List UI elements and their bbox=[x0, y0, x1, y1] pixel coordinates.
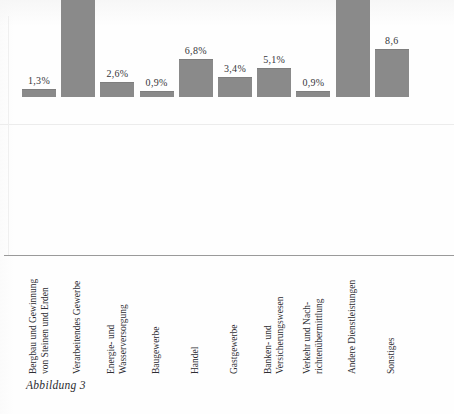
figure-page: • • • • 1,3%32,1%2,6%0,9%6,8%3,4%5,1%0,9… bbox=[0, 0, 454, 414]
bar-column: 2,6% bbox=[100, 83, 134, 97]
bar-value-label: 8,6 bbox=[367, 35, 417, 46]
bar-column: 8,6 bbox=[375, 50, 409, 97]
chart-baseline bbox=[4, 255, 454, 256]
bar bbox=[218, 77, 252, 97]
bar-value-label: 0,9% bbox=[288, 77, 338, 88]
bar-column: 5,1% bbox=[257, 69, 291, 97]
bar bbox=[336, 0, 370, 97]
bar-column: 1,3% bbox=[22, 90, 56, 97]
bar-column: 38,5% bbox=[336, 0, 370, 97]
bar bbox=[375, 49, 409, 97]
bar-column: 3,4% bbox=[218, 78, 252, 97]
category-label: Sonstiges bbox=[375, 258, 409, 374]
category-label: Banken- und Versicherungswesen bbox=[257, 258, 291, 374]
category-label: Bergbau und Gewinnung von Steinen und Er… bbox=[22, 258, 56, 374]
category-label-text: Andere Dienstleistungen bbox=[347, 258, 359, 374]
category-label-text: Handel bbox=[190, 258, 202, 374]
bar bbox=[296, 91, 330, 97]
category-label-text: Bergbau und Gewinnung von Steinen und Er… bbox=[28, 258, 51, 374]
bar-value-label: 5,1% bbox=[249, 54, 299, 65]
figure-caption: Abbildung 3 bbox=[26, 379, 86, 391]
category-label-text: Verkehr und Nach- richtenübermittlung bbox=[302, 258, 325, 374]
category-label-text: Banken- und Versicherungswesen bbox=[263, 258, 286, 374]
bar bbox=[22, 89, 56, 97]
category-label: Verarbeitendes Gewerbe bbox=[61, 258, 95, 374]
bar-chart-plot: 1,3%32,1%2,6%0,9%6,8%3,4%5,1%0,9%38,5%8,… bbox=[0, 0, 454, 256]
bar-value-label: 1,3% bbox=[14, 75, 64, 86]
bar-column: 6,8% bbox=[179, 60, 213, 97]
category-label-text: Baugewerbe bbox=[151, 258, 163, 374]
category-label-text: Gastgewerbe bbox=[229, 258, 241, 374]
category-label: Baugewerbe bbox=[140, 258, 174, 374]
bar-value-label: 3,4% bbox=[210, 63, 260, 74]
bar bbox=[257, 68, 291, 97]
category-label-text: Verarbeitendes Gewerbe bbox=[72, 258, 84, 374]
category-label-text: Sonstiges bbox=[386, 258, 398, 374]
category-label: Energie- und Wasserversorgung bbox=[100, 258, 134, 374]
bar-value-label: 0,9% bbox=[132, 77, 182, 88]
category-label: Andere Dienstleistungen bbox=[336, 258, 370, 374]
bar-column: 0,9% bbox=[140, 92, 174, 97]
bar bbox=[140, 91, 174, 97]
bar-column: 0,9% bbox=[296, 92, 330, 97]
bar bbox=[100, 82, 134, 97]
bar bbox=[61, 0, 95, 97]
bar-value-label: 6,8% bbox=[171, 45, 221, 56]
category-label: Handel bbox=[179, 258, 213, 374]
category-label-text: Energie- und Wasserversorgung bbox=[106, 258, 129, 374]
bar-column: 32,1% bbox=[61, 0, 95, 97]
category-label: Gastgewerbe bbox=[218, 258, 252, 374]
category-axis-labels: Bergbau und Gewinnung von Steinen und Er… bbox=[0, 258, 454, 376]
category-label: Verkehr und Nach- richtenübermittlung bbox=[296, 258, 330, 374]
bar bbox=[179, 59, 213, 97]
